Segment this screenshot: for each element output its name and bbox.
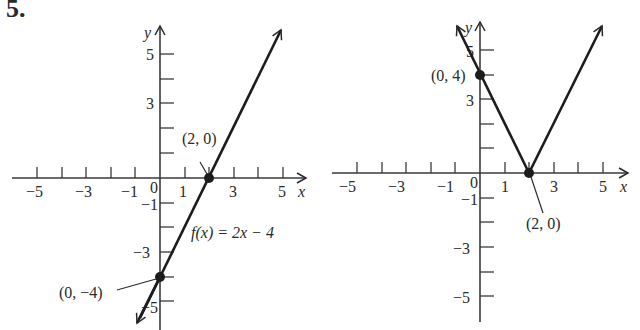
left-x-label-p1: 1 [179,183,187,200]
left-x-label-p3: 3 [229,183,237,200]
right-point-2-0 [524,168,534,178]
right-x-label-m3: −3 [388,178,405,195]
right-graph: −5 −3 −1 0 1 3 5 x 5 3 −1 −3 −5 y (0, 4)… [332,19,628,322]
left-x-label-m5: −5 [26,183,43,200]
left-point-0-m4 [155,272,165,282]
right-point-label-2-0: (2, 0) [526,215,561,233]
left-function-label: f(x) = 2x − 4 [191,224,274,242]
left-x-label-p5: 5 [278,183,286,200]
left-graph: −5 −3 −1 0 1 3 5 x 5 3 −1 −3 −5 y (2, 0)… [12,24,306,330]
left-y-axis-label: y [142,24,152,42]
graphs-canvas: −5 −3 −1 0 1 3 5 x 5 3 −1 −3 −5 y (2, 0)… [0,0,640,330]
left-point-label-0-m4: (0, −4) [59,284,103,302]
left-y-label-p3: 3 [146,95,154,112]
left-leader-2-0 [200,162,207,174]
left-x-axis-label: x [297,183,305,200]
right-leader-2-0 [531,177,543,213]
left-y-label-p5: 5 [146,46,154,63]
left-y-label-m3: −3 [133,244,150,261]
left-leader-0-m4 [117,279,156,290]
right-y-label-p3: 3 [466,92,474,109]
left-x-label-0: 0 [150,179,158,196]
right-x-label-0: 0 [470,174,478,191]
right-y-axis-label: y [463,19,473,37]
right-x-label-m1: −1 [437,178,454,195]
right-point-0-4 [475,70,485,80]
right-abs-line-right [529,26,602,173]
left-point-2-0 [204,173,214,183]
right-y-label-m5: −5 [453,289,470,306]
left-x-label-m1: −1 [121,183,138,200]
right-x-label-m5: −5 [339,178,356,195]
right-x-label-p1: 1 [501,178,509,195]
right-point-label-0-4: (0, 4) [431,67,466,85]
left-point-label-2-0: (2, 0) [182,130,217,148]
left-x-label-m3: −3 [75,183,92,200]
right-x-label-p5: 5 [599,178,607,195]
right-x-label-p3: 3 [550,178,558,195]
right-x-axis-label: x [619,178,627,195]
right-y-label-m1: −1 [461,191,478,208]
left-y-label-m1: −1 [141,196,158,213]
right-y-label-m3: −3 [453,240,470,257]
